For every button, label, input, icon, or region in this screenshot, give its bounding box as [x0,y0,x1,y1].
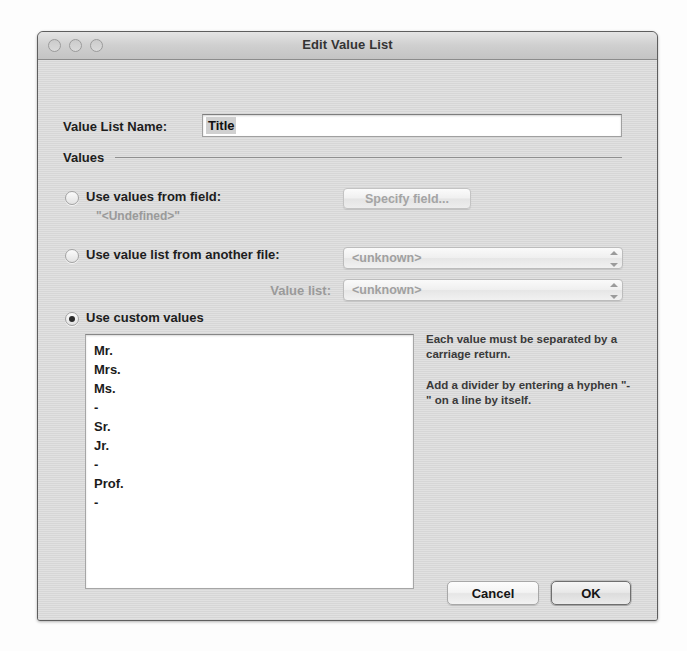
ok-button[interactable]: OK [551,581,631,605]
dialog-body: Value List Name: Title Values Use values… [38,60,657,620]
value-list-dropdown-value: <unknown> [344,283,421,297]
window-titlebar[interactable]: Edit Value List [38,32,657,60]
cancel-button[interactable]: Cancel [447,581,539,605]
values-group-divider [115,157,622,158]
undefined-field-note: "<Undefined>" [96,209,180,223]
custom-value-line: Mr. [94,341,407,360]
values-group-label: Values [63,150,104,165]
help-text-divider: Add a divider by entering a hyphen "-" o… [426,378,634,407]
radio-use-custom-values[interactable] [65,312,79,326]
screen: Edit Value List Value List Name: Title V… [0,0,687,651]
custom-values-textarea[interactable]: Mr. Mrs. Ms. - Sr. Jr. - Prof. - [85,334,414,589]
value-list-dropdown-label: Value list: [270,283,331,298]
value-list-dropdown[interactable]: <unknown> [343,279,623,301]
radio-use-values-from-field[interactable] [65,191,79,205]
window-title: Edit Value List [38,37,657,52]
radio-use-values-from-field-label: Use values from field: [86,189,221,204]
custom-value-line: Sr. [94,417,407,436]
help-text-separator: Each value must be separated by a carria… [426,332,634,361]
edit-value-list-dialog: Edit Value List Value List Name: Title V… [37,31,658,621]
specify-field-button[interactable]: Specify field... [343,188,471,209]
radio-use-custom-values-label: Use custom values [86,310,204,325]
custom-value-line: Ms. [94,379,407,398]
value-list-name-input[interactable]: Title [202,114,622,137]
value-list-name-value: Title [206,117,236,134]
chevron-updown-icon [609,251,618,267]
chevron-updown-icon [609,283,618,299]
custom-value-line: - [94,398,407,417]
custom-value-line: - [94,493,407,512]
radio-use-value-list-from-another-file-label: Use value list from another file: [86,247,280,262]
radio-use-value-list-from-another-file[interactable] [65,249,79,263]
custom-value-line: Jr. [94,436,407,455]
custom-value-line: Mrs. [94,360,407,379]
custom-value-line: - [94,455,407,474]
source-file-dropdown[interactable]: <unknown> [343,247,623,269]
source-file-value: <unknown> [344,251,421,265]
value-list-name-label: Value List Name: [63,119,167,134]
custom-value-line: Prof. [94,474,407,493]
